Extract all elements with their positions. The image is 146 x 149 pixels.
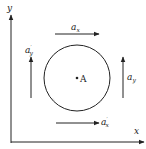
svg-text:a′x: a′x <box>101 116 110 128</box>
vector-ax-sub: x <box>76 26 80 33</box>
vector-ay-prime: a′y <box>25 44 34 98</box>
vector-ay-sub: y <box>131 76 136 84</box>
point-a-label: A <box>79 74 87 84</box>
point-a: A <box>76 74 87 84</box>
vector-ax-prime-sub: x <box>106 121 110 128</box>
y-axis: y <box>6 3 13 143</box>
svg-text:ax: ax <box>71 22 80 33</box>
vector-ay: ay <box>123 57 136 98</box>
loop-arrow-upper-left-icon <box>53 53 56 56</box>
svg-text:ay: ay <box>127 72 136 84</box>
x-axis: x <box>11 126 144 142</box>
vector-field-diagram: y x A ax a′x a′y ay <box>0 0 146 149</box>
svg-text:a′y: a′y <box>25 44 34 57</box>
x-axis-label: x <box>134 126 139 136</box>
vector-ax: ax <box>55 22 99 34</box>
vector-ay-prime-sub: y <box>29 49 34 57</box>
y-axis-label: y <box>6 3 13 13</box>
vector-ax-prime: a′x <box>56 116 110 128</box>
